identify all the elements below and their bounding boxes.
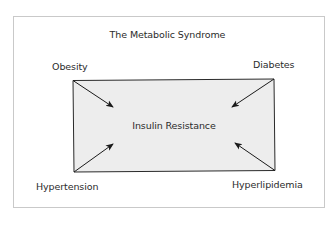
diagram-title: The Metabolic Syndrome bbox=[0, 29, 335, 40]
insulin-resistance-label: Insulin Resistance bbox=[73, 120, 275, 131]
factor-hypertension-label: Hypertension bbox=[36, 181, 98, 192]
factor-hyperlipidemia-label: Hyperlipidemia bbox=[232, 179, 303, 190]
factor-obesity-label: Obesity bbox=[52, 61, 88, 72]
factor-diabetes-label: Diabetes bbox=[253, 59, 294, 70]
